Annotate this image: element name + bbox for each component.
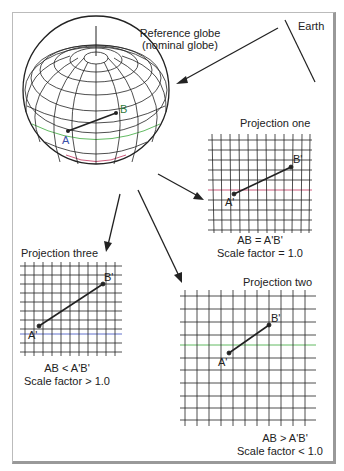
projection-two-a-label: A' xyxy=(218,356,227,368)
projection-one-a-label: A' xyxy=(225,196,234,208)
projection-three-a-label: A' xyxy=(28,329,37,341)
projection-two-scale: Scale factor < 1.0 xyxy=(225,445,335,457)
projection-three-title: Projection three xyxy=(21,247,98,259)
projection-two-title: Projection two xyxy=(243,276,312,288)
globe-point-a-label: A xyxy=(62,134,69,146)
projection-two-b-label: B' xyxy=(271,312,280,324)
reference-globe-line1: Reference globe xyxy=(135,27,225,39)
projection-one-scale: Scale factor = 1.0 xyxy=(210,247,310,259)
reference-globe-line2: (nominal globe) xyxy=(135,39,225,51)
projection-one-b-label: B' xyxy=(293,153,302,165)
projection-one-relation: AB = A'B' xyxy=(215,234,305,246)
projection-three-scale: Scale factor > 1.0 xyxy=(17,375,117,387)
projection-three-relation: AB < A'B' xyxy=(22,362,112,374)
projection-one-grid xyxy=(208,134,312,233)
projection-two-relation: AB > A'B' xyxy=(240,432,330,444)
projection-two-grid xyxy=(180,290,316,426)
reference-globe-label: Reference globe (nominal globe) xyxy=(135,27,225,51)
globe-point-b-label: B xyxy=(120,103,127,115)
projection-three-b-label: B' xyxy=(104,271,113,283)
projection-one-title: Projection one xyxy=(240,117,310,129)
earth-label: Earth xyxy=(298,20,324,32)
